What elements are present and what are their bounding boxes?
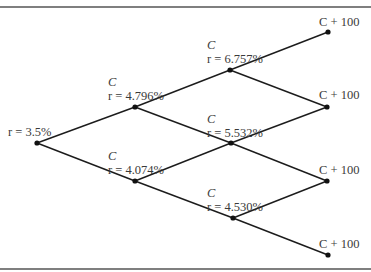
- node-n2ud: [228, 140, 233, 145]
- node-n0: [34, 140, 39, 145]
- edge-n2uu-n3b: [230, 70, 327, 107]
- node-n3c: [324, 178, 329, 183]
- n2uu-rate-label: r = 6.757%: [207, 52, 263, 66]
- tree-edges: [37, 32, 328, 255]
- n1d-rate-label: r = 4.074%: [108, 163, 164, 177]
- edge-n0-n1u: [37, 107, 135, 143]
- n1u-cashflow-label: C: [108, 75, 117, 89]
- n2ud-cashflow-label: C: [207, 112, 216, 126]
- root-rate-label: r = 3.5%: [8, 125, 52, 139]
- interest-rate-tree: r = 3.5% C r = 4.796% C r = 4.074% C r =…: [0, 0, 371, 272]
- node-n2uu: [227, 67, 232, 72]
- edge-n2dd-n3d: [233, 218, 328, 255]
- tree-nodes: [34, 29, 330, 257]
- n2uu-cashflow-label: C: [207, 38, 216, 52]
- n3c-cashflow-label: C + 100: [319, 163, 359, 177]
- node-n3a: [325, 29, 330, 34]
- n2dd-cashflow-label: C: [207, 186, 216, 200]
- node-n1d: [132, 178, 137, 183]
- n2dd-rate-label: r = 4.530%: [207, 200, 263, 214]
- n1u-rate-label: r = 4.796%: [108, 89, 164, 103]
- n2ud-rate-label: r = 5.532%: [207, 126, 263, 140]
- node-n3d: [325, 252, 330, 257]
- edge-n2ud-n3c: [231, 143, 327, 181]
- node-n2dd: [230, 215, 235, 220]
- n3b-cashflow-label: C + 100: [319, 88, 359, 102]
- node-n1u: [132, 104, 137, 109]
- n1d-cashflow-label: C: [108, 149, 117, 163]
- node-n3b: [324, 104, 329, 109]
- n3a-cashflow-label: C + 100: [319, 15, 359, 29]
- n3d-cashflow-label: C + 100: [319, 237, 359, 251]
